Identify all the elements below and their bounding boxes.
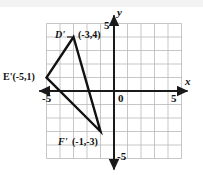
x-axis-max-tick-label: 5 [171,93,177,104]
plot-canvas [0,0,203,175]
vertex-coord-d-prime: (-3,4) [78,30,101,40]
y-axis-min-tick-label: -5 [117,151,126,162]
vertex-name-d-prime: D' [55,29,65,40]
vertex-label-f-prime: F' [58,137,67,147]
coordinate-plane-figure: 5 -5 -5 5 0 y x D' (-3,4) E'(-5,1) F' (-… [0,0,203,175]
vertex-name-f-prime: F' [58,136,67,147]
y-axis-name-label: y [117,7,122,18]
origin-label: 0 [118,93,124,104]
vertex-coord-f-prime: (-1,-3) [72,137,98,147]
x-axis-min-tick-label: -5 [42,93,51,104]
x-axis-name-label: x [185,76,191,87]
y-axis-max-tick-label: 5 [104,20,110,31]
vertex-label-d-prime: D' [55,30,65,40]
vertex-label-e-prime: E'(-5,1) [3,72,35,82]
